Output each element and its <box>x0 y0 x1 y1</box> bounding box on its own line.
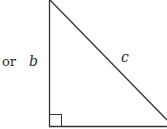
label-c: c <box>121 49 129 65</box>
right-triangle-diagram: or b c <box>0 0 167 129</box>
hypotenuse <box>50 0 167 120</box>
or-text: or <box>2 54 17 69</box>
label-b: b <box>29 53 38 69</box>
right-angle-marker <box>50 115 62 127</box>
